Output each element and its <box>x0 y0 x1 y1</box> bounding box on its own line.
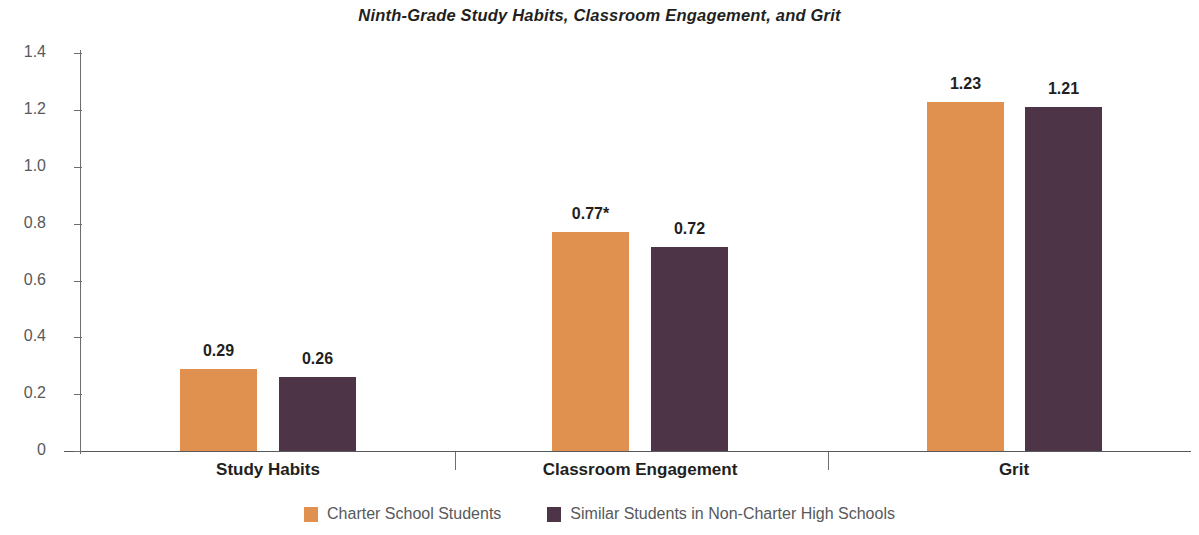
x-axis-group-label: Grit <box>864 460 1164 480</box>
legend-item: Charter School Students <box>304 505 501 523</box>
x-axis-group-label: Study Habits <box>118 460 418 480</box>
y-axis-tick-label: 0.8 <box>0 214 46 232</box>
bar-value-label: 0.26 <box>259 350 376 368</box>
y-axis-tick-label: 1.4 <box>0 43 46 61</box>
bar <box>1025 107 1102 451</box>
bar-chart-figure: Ninth-Grade Study Habits, Classroom Enga… <box>0 0 1199 535</box>
bar <box>552 232 629 451</box>
y-axis-tick-mark <box>74 451 82 452</box>
y-axis-tick-label: 1.0 <box>0 157 46 175</box>
legend-label: Charter School Students <box>327 505 501 523</box>
legend-label: Similar Students in Non-Charter High Sch… <box>570 505 895 523</box>
y-axis-tick-label: 0 <box>0 441 46 459</box>
bar-value-label: 1.21 <box>1005 80 1122 98</box>
bar <box>651 247 728 451</box>
page-title: Ninth-Grade Study Habits, Classroom Enga… <box>0 6 1199 25</box>
bar-value-label: 0.72 <box>631 220 748 238</box>
x-axis-baseline <box>64 451 1191 452</box>
y-axis-tick-label: 1.2 <box>0 100 46 118</box>
x-axis-group-label: Classroom Engagement <box>490 460 790 480</box>
bar <box>927 102 1004 451</box>
legend-item: Similar Students in Non-Charter High Sch… <box>547 505 895 523</box>
y-axis-tick-label: 0.4 <box>0 327 46 345</box>
bar <box>180 369 257 451</box>
legend-swatch-icon <box>547 507 561 522</box>
y-axis-tick-label: 0.2 <box>0 384 46 402</box>
group-divider-tick <box>828 452 829 470</box>
y-axis-tick-label: 0.6 <box>0 271 46 289</box>
legend: Charter School StudentsSimilar Students … <box>0 505 1199 523</box>
bar <box>279 377 356 451</box>
legend-swatch-icon <box>304 507 318 522</box>
group-divider-tick <box>455 452 456 470</box>
